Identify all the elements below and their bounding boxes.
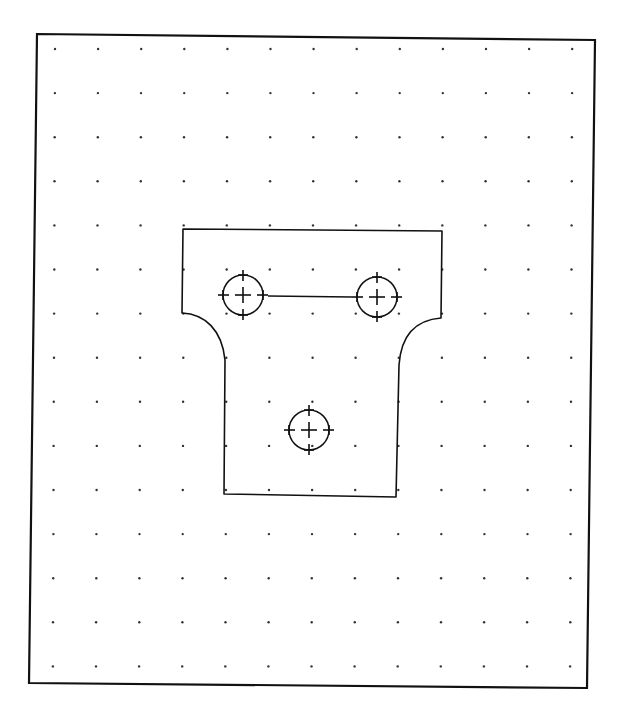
grid-dot	[182, 489, 184, 491]
grid-dot	[225, 445, 227, 447]
grid-dot	[52, 577, 54, 579]
grid-dot	[95, 533, 97, 535]
grid-dot	[96, 357, 98, 359]
grid-dot	[52, 621, 54, 623]
grid-dot	[483, 445, 485, 447]
grid-dot	[355, 224, 357, 226]
grid-dot	[483, 577, 485, 579]
grid-dot	[311, 357, 313, 359]
grid-dot	[570, 312, 572, 314]
grid-dot	[527, 224, 529, 226]
grid-dot	[268, 401, 270, 403]
grid-dot	[569, 577, 571, 579]
grid-dot	[441, 180, 443, 182]
grid-dot	[52, 533, 54, 535]
grid-dot	[139, 312, 141, 314]
grid-dot	[225, 533, 227, 535]
grid-dot	[353, 665, 355, 667]
grid-dot	[139, 401, 141, 403]
grid-dot	[354, 533, 356, 535]
grid-dot	[570, 224, 572, 226]
grid-dot	[311, 621, 313, 623]
grid-dot	[226, 92, 228, 94]
grid-dot	[397, 665, 399, 667]
grid-dot	[354, 357, 356, 359]
grid-dot	[183, 136, 185, 138]
grid-dot	[95, 621, 97, 623]
grid-dot	[311, 577, 313, 579]
grid-dot	[483, 489, 485, 491]
grid-dot	[140, 48, 142, 50]
grid-dot	[399, 48, 401, 50]
grid-dot	[226, 180, 228, 182]
grid-dot	[139, 357, 141, 359]
grid-dot	[354, 401, 356, 403]
grid-dot	[312, 312, 314, 314]
grid-dot	[311, 489, 313, 491]
grid-dot	[528, 48, 530, 50]
grid-dot	[528, 92, 530, 94]
grid-dot	[267, 621, 269, 623]
grid-dot	[182, 357, 184, 359]
grid-dot	[52, 665, 54, 667]
grid-dot	[397, 489, 399, 491]
grid-dot	[53, 401, 55, 403]
grid-dot	[53, 357, 55, 359]
grid-dot	[139, 268, 141, 270]
grid-dot	[311, 401, 313, 403]
grid-dot	[398, 180, 400, 182]
grid-dot	[571, 136, 573, 138]
grid-dot	[268, 577, 270, 579]
grid-dot	[355, 180, 357, 182]
grid-dot	[268, 357, 270, 359]
grid-dot	[354, 445, 356, 447]
grid-dot	[269, 268, 271, 270]
grid-dot	[52, 489, 54, 491]
grid-dot	[484, 180, 486, 182]
grid-dot	[96, 401, 98, 403]
grid-dot	[528, 136, 530, 138]
canvas-background	[0, 0, 633, 727]
grid-dot	[527, 312, 529, 314]
grid-dot	[527, 180, 529, 182]
grid-dot	[569, 621, 571, 623]
grid-dot	[139, 489, 141, 491]
grid-dot	[183, 48, 185, 50]
grid-dot	[268, 533, 270, 535]
grid-dot	[355, 268, 357, 270]
grid-dot	[95, 665, 97, 667]
grid-dot	[54, 136, 56, 138]
grid-dot	[312, 180, 314, 182]
grid-dot	[398, 312, 400, 314]
grid-dot	[442, 92, 444, 94]
grid-dot	[485, 48, 487, 50]
grid-dot	[570, 268, 572, 270]
grid-dot	[355, 136, 357, 138]
grid-dot	[483, 665, 485, 667]
grid-dot	[441, 401, 443, 403]
grid-dot	[483, 621, 485, 623]
grid-dot	[52, 445, 54, 447]
grid-dot	[355, 92, 357, 94]
grid-dot	[224, 665, 226, 667]
grid-dot	[97, 92, 99, 94]
grid-dot	[95, 577, 97, 579]
grid-dot	[181, 665, 183, 667]
grid-dot	[226, 48, 228, 50]
grid-dot	[527, 401, 529, 403]
grid-dot	[570, 401, 572, 403]
grid-dot	[54, 92, 56, 94]
grid-dot	[312, 48, 314, 50]
grid-dot	[139, 224, 141, 226]
grid-dot	[356, 48, 358, 50]
grid-dot	[268, 445, 270, 447]
grid-dot	[183, 92, 185, 94]
grid-dot	[182, 533, 184, 535]
grid-dot	[484, 268, 486, 270]
grid-dot	[571, 180, 573, 182]
grid-dot	[311, 533, 313, 535]
grid-dot	[569, 665, 571, 667]
grid-dot	[527, 268, 529, 270]
grid-dot	[526, 533, 528, 535]
grid-dot	[54, 48, 56, 50]
